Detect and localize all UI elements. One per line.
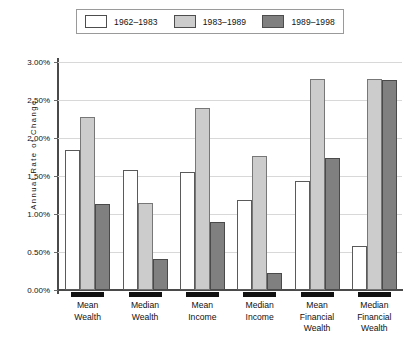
bar bbox=[252, 156, 267, 290]
x-axis-category-label-line: Wealth bbox=[341, 323, 404, 335]
bar bbox=[310, 79, 325, 290]
bar-group bbox=[295, 62, 340, 290]
x-axis-category-tick bbox=[243, 292, 276, 297]
bar bbox=[367, 79, 382, 290]
plot-area bbox=[58, 62, 402, 290]
legend-swatch-icon-series-2 bbox=[262, 15, 284, 28]
x-axis-category-label-line: Financial bbox=[341, 312, 404, 324]
x-axis-category-label-line: Mean bbox=[169, 300, 235, 312]
bar bbox=[153, 259, 168, 290]
bar bbox=[65, 150, 80, 290]
x-axis-category-tick bbox=[358, 292, 391, 297]
x-axis-category-label-line: Income bbox=[227, 312, 293, 324]
x-axis-category-label-line: Mean bbox=[284, 300, 350, 312]
x-axis-category-label-line: Wealth bbox=[284, 323, 350, 335]
legend-label-series-2: 1989–1998 bbox=[291, 17, 334, 27]
bar-groups bbox=[58, 62, 402, 290]
bar-group bbox=[237, 62, 282, 290]
x-axis-category-label-line: Mean bbox=[55, 300, 121, 312]
bar bbox=[382, 80, 397, 290]
x-axis-category-label-line: Wealth bbox=[55, 312, 121, 324]
x-axis-category-label-line: Median bbox=[341, 300, 404, 312]
bar bbox=[80, 117, 95, 290]
bar bbox=[138, 203, 153, 290]
x-axis-category-tick bbox=[186, 292, 219, 297]
y-axis-tick-label: 2.50% bbox=[27, 96, 50, 105]
legend-item-series-0: 1962–1983 bbox=[85, 15, 157, 28]
x-axis-category-label: MeanFinancialWealth bbox=[284, 300, 350, 335]
legend-swatch-icon-series-1 bbox=[174, 15, 196, 28]
bar bbox=[325, 158, 340, 290]
legend-label-series-0: 1962–1983 bbox=[114, 17, 157, 27]
bar-chart: 1962–1983 1983–1989 1989–1998 Annual Rat… bbox=[0, 0, 404, 341]
x-axis-category-label-line: Wealth bbox=[112, 312, 178, 324]
bar bbox=[180, 172, 195, 290]
legend-item-series-1: 1983–1989 bbox=[174, 15, 246, 28]
bar-group bbox=[180, 62, 225, 290]
bar-group bbox=[352, 62, 397, 290]
bar bbox=[352, 246, 367, 290]
y-axis-tick-label: 0.00% bbox=[27, 286, 50, 295]
x-axis-category-tick bbox=[71, 292, 104, 297]
chart-legend: 1962–1983 1983–1989 1989–1998 bbox=[76, 9, 344, 34]
y-axis-tick-labels: 0.00%0.50%1.00%1.50%2.00%2.50%3.00% bbox=[0, 62, 54, 294]
x-axis-category-label-line: Median bbox=[227, 300, 293, 312]
y-axis-tick-label: 1.50% bbox=[27, 172, 50, 181]
y-axis-tick-label: 1.00% bbox=[27, 210, 50, 219]
bar bbox=[237, 200, 252, 290]
x-axis-category-label-line: Median bbox=[112, 300, 178, 312]
bar bbox=[95, 204, 110, 290]
x-axis-category-label: MedianFinancialWealth bbox=[341, 300, 404, 335]
legend-swatch-icon-series-0 bbox=[85, 15, 107, 28]
bar bbox=[210, 222, 225, 290]
y-axis-tick-label: 2.00% bbox=[27, 134, 50, 143]
bar bbox=[123, 170, 138, 290]
x-axis-category-label-line: Financial bbox=[284, 312, 350, 324]
legend-item-series-2: 1989–1998 bbox=[262, 15, 334, 28]
legend-label-series-1: 1983–1989 bbox=[203, 17, 246, 27]
x-axis-category-tick bbox=[301, 292, 334, 297]
bar bbox=[295, 181, 310, 290]
x-axis-category-label-line: Income bbox=[169, 312, 235, 324]
y-axis-tick bbox=[54, 290, 58, 291]
x-axis-category-label: MeanIncome bbox=[169, 300, 235, 323]
bar-group bbox=[65, 62, 110, 290]
x-axis-category-tick bbox=[129, 292, 162, 297]
bar bbox=[267, 273, 282, 290]
x-axis-category-label: MeanWealth bbox=[55, 300, 121, 323]
x-axis-category-label: MedianWealth bbox=[112, 300, 178, 323]
bar bbox=[195, 108, 210, 290]
bar-group bbox=[123, 62, 168, 290]
y-axis-tick-label: 0.50% bbox=[27, 248, 50, 257]
x-axis-category-label: MedianIncome bbox=[227, 300, 293, 323]
y-axis-tick-label: 3.00% bbox=[27, 58, 50, 67]
